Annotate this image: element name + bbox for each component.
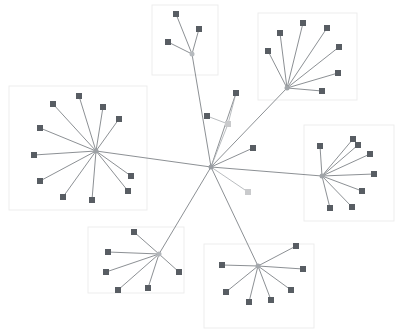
box-cluster-top-right <box>258 13 357 100</box>
graph-leaf-node[interactable] <box>128 173 134 179</box>
graph-leaf-node[interactable] <box>31 152 37 158</box>
graph-leaf-node[interactable] <box>327 205 333 211</box>
graph-leaf-node[interactable] <box>359 188 365 194</box>
graph-leaf-node[interactable] <box>100 104 106 110</box>
graph-leaf-node[interactable] <box>324 25 330 31</box>
graph-leaf-node[interactable] <box>350 136 356 142</box>
graph-leaf-node[interactable] <box>265 48 271 54</box>
graph-leaf-node[interactable] <box>268 297 274 303</box>
box-cluster-top <box>152 5 218 75</box>
network-graph-svg <box>0 0 399 331</box>
graph-leaf-node[interactable] <box>60 194 66 200</box>
graph-leaf-node[interactable] <box>176 269 182 275</box>
graph-leaf-node[interactable] <box>223 289 229 295</box>
graph-leaf-node[interactable] <box>335 70 341 76</box>
graph-leaf-node[interactable] <box>300 20 306 26</box>
network-graph-canvas <box>0 0 399 331</box>
graph-leaf-node[interactable] <box>37 125 43 131</box>
graph-leaf-node[interactable] <box>336 44 342 50</box>
graph-leaf-node[interactable] <box>246 299 252 305</box>
box-cluster-bottom-right <box>204 244 314 328</box>
graph-leaf-node[interactable] <box>173 11 179 17</box>
graph-leaf-node[interactable] <box>105 249 111 255</box>
graph-hub-node[interactable] <box>94 149 99 154</box>
graph-leaf-node[interactable] <box>116 116 122 122</box>
graph-leaf-node[interactable] <box>115 287 121 293</box>
graph-leaf-node[interactable] <box>131 229 137 235</box>
graph-leaf-node[interactable] <box>204 113 210 119</box>
graph-leaf-node[interactable] <box>293 243 299 249</box>
graph-leaf-node[interactable] <box>145 285 151 291</box>
graph-leaf-node[interactable] <box>288 287 294 293</box>
graph-leaf-node-faded[interactable] <box>245 189 251 195</box>
graph-hub-node[interactable] <box>256 264 261 269</box>
graph-leaf-node[interactable] <box>300 266 306 272</box>
graph-leaf-node[interactable] <box>277 30 283 36</box>
graph-leaf-node[interactable] <box>103 269 109 275</box>
graph-leaf-node[interactable] <box>367 151 373 157</box>
graph-leaf-node[interactable] <box>50 101 56 107</box>
graph-hub-node[interactable] <box>285 86 290 91</box>
graph-leaf-node[interactable] <box>355 142 361 148</box>
graph-hub-node[interactable] <box>320 174 325 179</box>
graph-leaf-node[interactable] <box>219 262 225 268</box>
graph-leaf-node[interactable] <box>196 26 202 32</box>
graph-hub-node[interactable] <box>209 165 214 170</box>
graph-leaf-node[interactable] <box>317 143 323 149</box>
graph-leaf-node[interactable] <box>371 171 377 177</box>
graph-leaf-node-faded[interactable] <box>225 121 231 127</box>
graph-leaf-node[interactable] <box>250 145 256 151</box>
graph-leaf-node[interactable] <box>165 39 171 45</box>
graph-leaf-node[interactable] <box>37 178 43 184</box>
graph-leaf-node[interactable] <box>89 197 95 203</box>
graph-leaf-node[interactable] <box>233 90 239 96</box>
graph-hub-node[interactable] <box>190 52 195 57</box>
graph-hub-node[interactable] <box>157 252 162 257</box>
graph-leaf-node[interactable] <box>319 88 325 94</box>
graph-leaf-node[interactable] <box>125 188 131 194</box>
graph-leaf-node[interactable] <box>76 93 82 99</box>
graph-leaf-node[interactable] <box>349 204 355 210</box>
